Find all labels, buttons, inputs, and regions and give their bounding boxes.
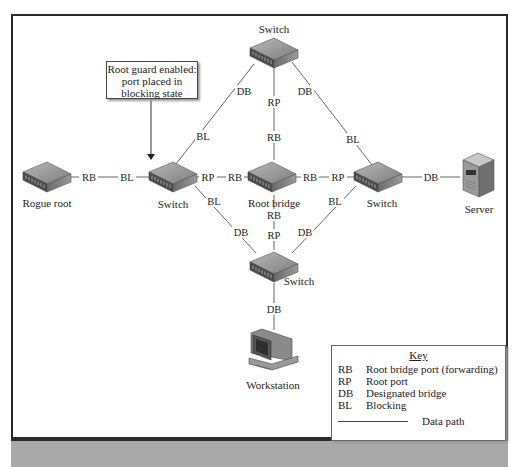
switch-top[interactable] bbox=[250, 38, 298, 68]
key-data-path: Data path bbox=[338, 415, 505, 427]
port-label: RB bbox=[228, 172, 242, 183]
port-label: RP bbox=[268, 97, 281, 108]
key-row: DB Designated bridge bbox=[338, 387, 505, 399]
port-label: RB bbox=[267, 132, 281, 143]
label-left-switch: Switch bbox=[158, 198, 189, 210]
port-label: RP bbox=[202, 172, 215, 183]
key-title: Key bbox=[332, 349, 505, 363]
port-label: DB bbox=[267, 304, 282, 315]
key-desc: Root port bbox=[366, 375, 408, 387]
switch-right[interactable] bbox=[354, 162, 402, 192]
port-label: DB bbox=[298, 227, 313, 238]
port-label: BL bbox=[346, 134, 359, 145]
key-abbr: RP bbox=[338, 375, 366, 387]
key-abbr: BL bbox=[338, 399, 366, 411]
port-label: BL bbox=[207, 196, 220, 207]
data-path-label: Data path bbox=[422, 415, 464, 427]
label-root-bridge: Root bridge bbox=[248, 197, 300, 209]
port-label: RP bbox=[332, 172, 345, 183]
port-label: BL bbox=[120, 172, 133, 183]
port-label: DB bbox=[298, 86, 313, 97]
key-row: RP Root port bbox=[338, 375, 505, 387]
key-abbr: DB bbox=[338, 387, 366, 399]
key-desc: Root bridge port (forwarding) bbox=[366, 363, 498, 375]
label-right-switch: Switch bbox=[367, 197, 398, 209]
key-row: BL Blocking bbox=[338, 399, 505, 411]
server-icon[interactable] bbox=[463, 153, 494, 197]
callout-arrow-head bbox=[147, 154, 155, 160]
legend-key: Key RB Root bridge port (forwarding) RP … bbox=[331, 345, 506, 441]
port-label: RB bbox=[82, 172, 96, 183]
callout-line-3: blocking state bbox=[107, 87, 197, 99]
label-top-switch: Switch bbox=[259, 23, 290, 35]
port-label: RP bbox=[268, 230, 281, 241]
callout-line-2: port placed in bbox=[107, 75, 197, 87]
label-server: Server bbox=[465, 203, 494, 215]
key-abbr: RB bbox=[338, 363, 366, 375]
label-bottom-switch: Switch bbox=[284, 275, 315, 287]
switch-left[interactable] bbox=[149, 162, 197, 192]
workstation-icon[interactable] bbox=[249, 329, 298, 370]
port-label: RB bbox=[267, 210, 281, 221]
label-rogue-root: Rogue root bbox=[22, 197, 71, 209]
key-row: RB Root bridge port (forwarding) bbox=[338, 363, 505, 375]
key-desc: Designated bridge bbox=[366, 387, 446, 399]
port-label: BL bbox=[328, 196, 341, 207]
switch-root-bridge[interactable] bbox=[248, 162, 296, 192]
callout-line-1: Root guard enabled: bbox=[107, 63, 197, 75]
port-label: DB bbox=[237, 86, 252, 97]
key-desc: Blocking bbox=[366, 399, 406, 411]
port-label: DB bbox=[424, 172, 439, 183]
root-guard-callout: Root guard enabled: port placed in block… bbox=[106, 61, 198, 99]
switch-rogue-root[interactable] bbox=[23, 162, 71, 192]
label-workstation: Workstation bbox=[246, 379, 300, 391]
port-label: DB bbox=[234, 227, 249, 238]
port-label: BL bbox=[196, 131, 209, 142]
port-label: RB bbox=[303, 172, 317, 183]
data-path-line-sample bbox=[338, 421, 408, 422]
